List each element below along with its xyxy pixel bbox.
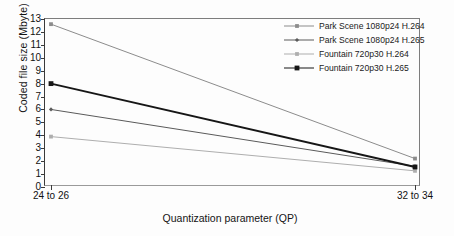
data-point-marker: [413, 169, 417, 173]
data-point-marker: [49, 107, 53, 111]
data-series: [49, 107, 417, 168]
series-line: [51, 84, 415, 167]
data-point-marker: [49, 135, 53, 139]
y-tick-label: 10: [30, 53, 41, 63]
data-point-marker: [413, 157, 417, 161]
x-tick-label: 24 to 26: [33, 190, 69, 201]
y-tick-label: 12: [30, 27, 41, 37]
chart-figure: Coded file size (Mbyte) Quantization par…: [0, 0, 454, 236]
legend-label: Fountain 720p30 H.264: [319, 49, 409, 59]
data-point-marker: [49, 22, 53, 26]
x-tick-label: 32 to 34: [397, 190, 433, 201]
legend-swatch-icon: [284, 20, 314, 31]
data-series: [49, 135, 417, 173]
y-tick-label: 11: [31, 40, 41, 50]
legend-label: Park Scene 1080p24 H.264: [319, 21, 425, 31]
data-series: [49, 81, 418, 169]
data-point-marker: [413, 165, 418, 170]
legend-swatch-icon: [284, 48, 314, 59]
y-tick-mark: [41, 187, 45, 188]
legend-swatch-icon: [284, 34, 314, 45]
legend-item: Fountain 720p30 H.264: [284, 48, 444, 60]
legend-label: Fountain 720p30 H.265: [319, 63, 409, 73]
y-axis-title: Coded file size (Mbyte): [17, 0, 29, 143]
legend-item: Park Scene 1080p24 H.265: [284, 34, 444, 46]
data-point-marker: [49, 81, 54, 86]
chart-legend: Park Scene 1080p24 H.264Park Scene 1080p…: [284, 20, 444, 76]
x-axis-title: Quantization parameter (QP): [40, 212, 420, 224]
legend-label: Park Scene 1080p24 H.265: [319, 35, 425, 45]
legend-item: Park Scene 1080p24 H.264: [284, 20, 444, 32]
legend-swatch-icon: [284, 62, 314, 73]
y-tick-label: 13: [30, 14, 41, 24]
legend-item: Fountain 720p30 H.265: [284, 62, 444, 74]
